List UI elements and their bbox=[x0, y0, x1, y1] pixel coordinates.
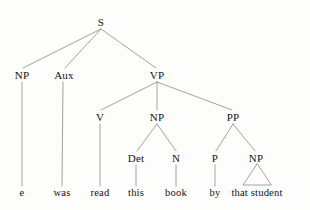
edge-s-to-np-subject bbox=[23, 29, 101, 68]
edge-aux-to-was bbox=[62, 82, 63, 186]
edge-s-to-vp bbox=[101, 29, 156, 68]
leaf-by: by bbox=[210, 188, 221, 199]
node-np-object: NP bbox=[150, 112, 164, 123]
leaf-trace: e bbox=[20, 188, 25, 199]
node-np-oblique: NP bbox=[249, 153, 263, 164]
node-aux: Aux bbox=[54, 70, 74, 81]
edge-s-to-aux bbox=[65, 29, 101, 68]
tree-edges-layer bbox=[0, 0, 310, 210]
node-det: Det bbox=[128, 153, 144, 164]
leaf-book: book bbox=[165, 188, 187, 199]
node-s: S bbox=[98, 17, 104, 28]
edge-vp-to-v bbox=[101, 82, 157, 110]
node-n: N bbox=[172, 153, 180, 164]
edge-np-object-to-det bbox=[137, 124, 157, 151]
leaf-read: read bbox=[91, 188, 110, 199]
np-oblique-triangle bbox=[243, 164, 271, 185]
syntax-tree-figure: S NP Aux VP V NP PP Det N P NP e was rea… bbox=[0, 0, 310, 210]
edge-pp-to-p bbox=[216, 124, 233, 151]
node-v: V bbox=[96, 112, 104, 123]
edge-np-object-to-n bbox=[157, 124, 176, 151]
node-vp: VP bbox=[150, 70, 164, 81]
leaf-that-student: that student bbox=[231, 188, 282, 199]
leaf-was: was bbox=[54, 188, 71, 199]
node-p: P bbox=[212, 153, 218, 164]
leaf-this: this bbox=[128, 188, 144, 199]
edge-pp-to-np-oblique bbox=[233, 124, 255, 151]
edge-vp-to-pp bbox=[157, 82, 232, 110]
node-np-subject: NP bbox=[15, 70, 29, 81]
node-pp: PP bbox=[227, 112, 240, 123]
